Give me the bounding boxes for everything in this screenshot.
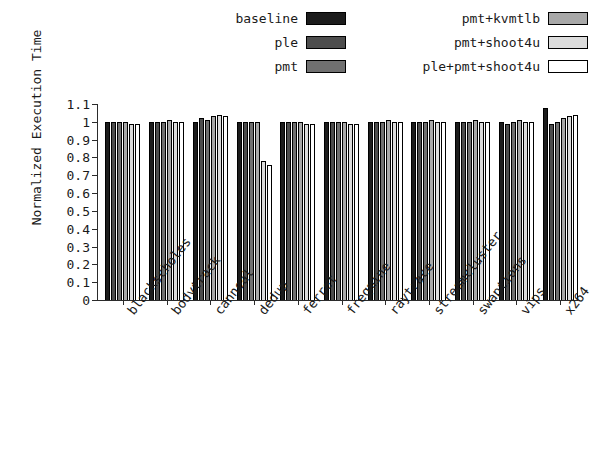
bar-bodytrack-ple-pmt-shoot4u bbox=[179, 122, 184, 300]
legend-item-ple-pmt-shoot4u: ple+pmt+shoot4u bbox=[346, 55, 588, 77]
bar-freqmine-pmt-kvmtlb bbox=[342, 122, 347, 300]
bar-blackscholes-ple-pmt-shoot4u bbox=[135, 124, 140, 300]
bar-group-x264 bbox=[543, 104, 578, 300]
bar-canneal-pmt-shoot4u bbox=[217, 115, 222, 300]
y-tick-mark bbox=[92, 157, 97, 158]
y-tick-label: 0.6 bbox=[67, 187, 90, 200]
bar-blackscholes-baseline bbox=[105, 122, 110, 300]
bar-raytrace-ple-pmt-shoot4u bbox=[398, 122, 403, 300]
legend-item-pmt: pmt bbox=[198, 55, 346, 77]
x-tick-mark bbox=[210, 300, 211, 305]
bar-x264-pmt-kvmtlb bbox=[561, 118, 566, 300]
y-tick-label: 0.5 bbox=[67, 204, 90, 217]
bar-freqmine-ple-pmt-shoot4u bbox=[354, 124, 359, 300]
x-tick-mark bbox=[516, 300, 517, 305]
bar-ferret-pmt-kvmtlb bbox=[298, 122, 303, 300]
y-tick-label: 0.2 bbox=[67, 258, 90, 271]
legend-color-swatch bbox=[548, 36, 588, 49]
bar-blackscholes-ple bbox=[111, 122, 116, 300]
bar-ferret-pmt-shoot4u bbox=[304, 124, 309, 300]
legend-color-swatch bbox=[306, 12, 346, 25]
x-tick-mark bbox=[429, 300, 430, 305]
legend-color-swatch bbox=[548, 12, 588, 25]
bar-streamcluster-pmt-shoot4u bbox=[435, 122, 440, 300]
bar-x264-pmt-shoot4u bbox=[567, 116, 572, 300]
bar-blackscholes-pmt-kvmtlb bbox=[123, 122, 128, 300]
bar-freqmine-pmt-shoot4u bbox=[348, 124, 353, 300]
legend-item-pmt-shoot4u: pmt+shoot4u bbox=[346, 31, 588, 53]
y-tick-label: 1 bbox=[82, 115, 90, 128]
x-tick-mark bbox=[473, 300, 474, 305]
bar-group-blackscholes bbox=[105, 104, 140, 300]
bar-group-freqmine bbox=[324, 104, 359, 300]
x-tick-mark bbox=[254, 300, 255, 305]
legend-color-swatch bbox=[306, 36, 346, 49]
bar-ferret-pmt bbox=[292, 122, 297, 300]
chart-legend: baselinepmt+kvmtlbplepmt+shoot4upmtple+p… bbox=[198, 6, 588, 78]
y-tick-mark bbox=[92, 282, 97, 283]
bar-freqmine-pmt bbox=[336, 122, 341, 300]
x-axis-line bbox=[97, 300, 578, 301]
y-tick-mark bbox=[92, 140, 97, 141]
bar-dedup-ple-pmt-shoot4u bbox=[267, 165, 272, 300]
y-axis-line bbox=[97, 104, 98, 300]
bar-ferret-ple-pmt-shoot4u bbox=[310, 124, 315, 300]
legend-color-swatch bbox=[306, 60, 346, 73]
x-tick-mark bbox=[385, 300, 386, 305]
bar-blackscholes-pmt-shoot4u bbox=[129, 124, 134, 300]
y-tick-label: 0 bbox=[82, 294, 90, 307]
bar-x264-ple bbox=[549, 124, 554, 300]
legend-item-label: pmt+kvmtlb bbox=[462, 12, 540, 25]
y-tick-mark bbox=[92, 193, 97, 194]
bar-bodytrack-pmt-shoot4u bbox=[173, 122, 178, 300]
y-tick-mark bbox=[92, 211, 97, 212]
legend-color-swatch bbox=[548, 60, 588, 73]
bar-vips-pmt-shoot4u bbox=[523, 122, 528, 300]
legend-item-label: baseline bbox=[235, 12, 298, 25]
bar-swaptions-pmt-shoot4u bbox=[479, 122, 484, 300]
y-tick-label: 0.8 bbox=[67, 151, 90, 164]
bar-ferret-baseline bbox=[280, 122, 285, 300]
x-tick-mark bbox=[167, 300, 168, 305]
bar-dedup-pmt-shoot4u bbox=[261, 161, 266, 300]
y-tick-mark bbox=[92, 122, 97, 123]
y-tick-label: 0.9 bbox=[67, 133, 90, 146]
legend-item-label: pmt bbox=[275, 60, 298, 73]
y-tick-label: 0.7 bbox=[67, 169, 90, 182]
y-tick-mark bbox=[92, 229, 97, 230]
bar-x264-baseline bbox=[543, 108, 548, 300]
x-tick-mark bbox=[560, 300, 561, 305]
x-tick-mark bbox=[342, 300, 343, 305]
y-tick-label: 0.4 bbox=[67, 222, 90, 235]
bar-vips-ple-pmt-shoot4u bbox=[529, 122, 534, 300]
y-tick-label: 0.1 bbox=[67, 276, 90, 289]
legend-item-label: pmt+shoot4u bbox=[454, 36, 540, 49]
bar-x264-ple-pmt-shoot4u bbox=[573, 115, 578, 300]
y-tick-label: 1.1 bbox=[67, 98, 90, 111]
legend-item-label: ple bbox=[275, 36, 298, 49]
legend-item-label: ple+pmt+shoot4u bbox=[423, 60, 540, 73]
y-axis-title: Normalized Execution Time bbox=[29, 18, 44, 238]
legend-item-ple: ple bbox=[198, 31, 346, 53]
y-tick-mark bbox=[92, 175, 97, 176]
bar-ferret-ple bbox=[286, 122, 291, 300]
legend-item-pmt-kvmtlb: pmt+kvmtlb bbox=[346, 7, 588, 29]
y-tick-mark bbox=[92, 247, 97, 248]
bar-canneal-ple-pmt-shoot4u bbox=[223, 116, 228, 300]
bar-blackscholes-pmt bbox=[117, 122, 122, 300]
x-tick-mark bbox=[298, 300, 299, 305]
legend-item-baseline: baseline bbox=[198, 7, 346, 29]
y-tick-mark bbox=[92, 300, 97, 301]
y-tick-mark bbox=[92, 264, 97, 265]
bar-group-ferret bbox=[280, 104, 315, 300]
y-tick-label: 0.3 bbox=[67, 240, 90, 253]
bar-streamcluster-ple-pmt-shoot4u bbox=[441, 122, 446, 300]
y-tick-mark bbox=[92, 104, 97, 105]
x-tick-mark bbox=[123, 300, 124, 305]
bar-x264-pmt bbox=[555, 122, 560, 300]
bar-raytrace-pmt-shoot4u bbox=[392, 122, 397, 300]
bar-swaptions-ple-pmt-shoot4u bbox=[485, 122, 490, 300]
